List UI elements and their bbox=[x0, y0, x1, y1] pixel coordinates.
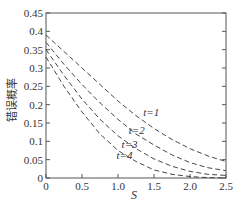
curve-labels: t=1t=2t=3t=4 bbox=[117, 106, 160, 161]
x-tick-label: 1.5 bbox=[147, 180, 161, 192]
y-tick-label: 0.05 bbox=[24, 154, 44, 166]
curve-label: t=2 bbox=[129, 124, 145, 136]
x-axis: 00.51.01.52.02.5 bbox=[43, 174, 233, 192]
y-tick-label: 0.1 bbox=[29, 135, 43, 147]
series-line bbox=[46, 57, 226, 178]
y-tick-label: 0.2 bbox=[29, 99, 43, 111]
y-tick-label: 0.3 bbox=[29, 62, 43, 74]
curve-label: t=4 bbox=[117, 149, 133, 161]
y-tick-label: 0.25 bbox=[24, 80, 44, 92]
x-tick-label: 0.5 bbox=[75, 180, 89, 192]
x-axis-label: S bbox=[131, 188, 137, 202]
curve-label: t=1 bbox=[143, 106, 159, 118]
plot-frame bbox=[46, 13, 226, 178]
y-tick-label: 0.15 bbox=[24, 117, 44, 129]
series-lines bbox=[46, 35, 226, 178]
x-tick-label: 1.0 bbox=[111, 180, 125, 192]
series-line bbox=[46, 50, 226, 176]
y-tick-label: 0.45 bbox=[24, 7, 44, 19]
series-line bbox=[46, 42, 226, 170]
x-tick-label: 0 bbox=[43, 180, 49, 192]
line-chart: 00.050.10.150.20.250.30.350.40.45 00.51.… bbox=[0, 0, 238, 213]
x-tick-label: 2.5 bbox=[219, 180, 233, 192]
y-tick-label: 0.35 bbox=[24, 44, 44, 56]
y-tick-label: 0.4 bbox=[29, 25, 43, 37]
x-tick-label: 2.0 bbox=[183, 180, 197, 192]
y-axis-label: 错误概率 bbox=[5, 78, 19, 122]
